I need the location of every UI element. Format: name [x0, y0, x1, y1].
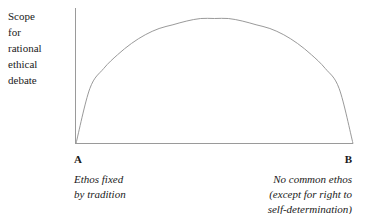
scope-arch-curve [76, 18, 353, 143]
endpoint-b-desc-line-3: self-determination) [252, 202, 352, 214]
endpoint-b-desc-line-2: (except for right to [252, 187, 352, 202]
endpoint-a-letter: A [74, 152, 126, 167]
endpoint-a-annotation: A Ethos fixed by tradition [74, 152, 126, 202]
endpoint-b-annotation: B No common ethos (except for right to s… [252, 152, 352, 214]
ethical-debate-scope-figure: Scope for rational ethical debate A Etho… [0, 0, 368, 214]
endpoint-b-letter: B [252, 152, 352, 167]
endpoint-a-desc-line-2: by tradition [74, 187, 126, 202]
endpoint-a-desc-line-1: Ethos fixed [74, 172, 126, 187]
endpoint-b-desc-line-1: No common ethos [252, 172, 352, 187]
